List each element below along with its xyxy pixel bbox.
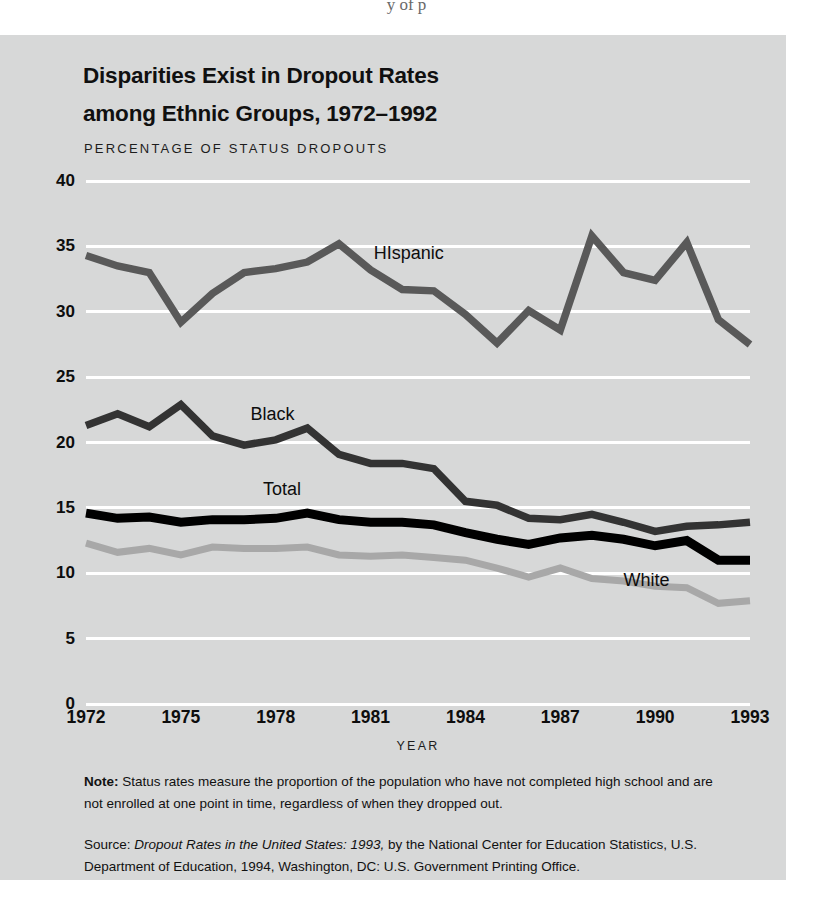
note-text: Note: Status rates measure the proportio… [84, 771, 724, 815]
x-axis-tick-label: 1981 [351, 707, 390, 728]
y-axis-tick-label: 20 [56, 433, 75, 453]
series-label-white: White [624, 570, 670, 591]
y-axis-tick-label: 35 [56, 236, 75, 256]
chart-title-line-1: Disparities Exist in Dropout Rates [83, 57, 723, 95]
source-publication-title: Dropout Rates in the United States: 1993… [134, 837, 384, 852]
x-axis-tick-labels: 19721975197819811984198719901993 [86, 707, 750, 733]
y-axis-tick-label: 30 [56, 302, 75, 322]
x-axis-tick-label: 1984 [446, 707, 485, 728]
source-text: Source: Dropout Rates in the United Stat… [84, 834, 724, 878]
x-axis-tick-label: 1978 [256, 707, 295, 728]
series-label-hispanic: HIspanic [374, 243, 444, 264]
source-label: Source: [84, 837, 131, 852]
plot-area: 0510152025303540 HIspanicBlackTotalWhite [86, 181, 750, 704]
x-axis-title: YEAR [86, 739, 750, 753]
x-axis-tick-label: 1975 [161, 707, 200, 728]
note-label: Note: [84, 774, 119, 789]
page-top-text-fragment: y of p [0, 0, 813, 14]
series-line-black [86, 405, 750, 532]
series-label-black: Black [250, 404, 294, 425]
y-axis-tick-label: 5 [66, 629, 75, 649]
note-body: Status rates measure the proportion of t… [84, 774, 713, 811]
series-label-total: Total [263, 479, 301, 500]
x-axis-tick-label: 1990 [636, 707, 675, 728]
figure-panel: Disparities Exist in Dropout Rates among… [0, 35, 786, 880]
y-axis-tick-label: 25 [56, 367, 75, 387]
x-axis-tick-label: 1972 [67, 707, 106, 728]
chart-title: Disparities Exist in Dropout Rates among… [83, 57, 723, 133]
x-axis-tick-label: 1987 [541, 707, 580, 728]
chart-title-line-2: among Ethnic Groups, 1972–1992 [83, 95, 723, 133]
y-axis-tick-label: 10 [56, 563, 75, 583]
y-axis-tick-label: 15 [56, 498, 75, 518]
y-axis-tick-label: 40 [56, 171, 75, 191]
y-axis-caption: PERCENTAGE OF STATUS DROPOUTS [84, 141, 388, 156]
x-axis-tick-label: 1993 [731, 707, 770, 728]
